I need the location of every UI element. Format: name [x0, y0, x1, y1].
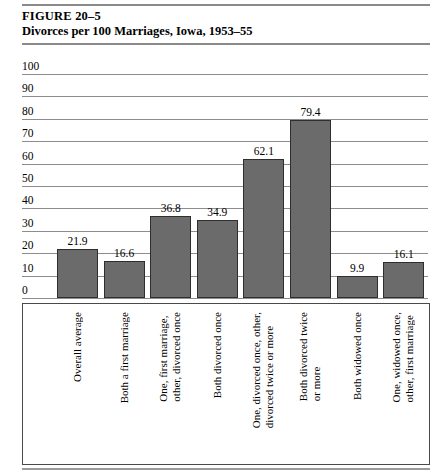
figure-foot-rule: [22, 468, 430, 470]
gridline: [22, 298, 428, 299]
gridline: [22, 119, 428, 120]
x-axis-category-label: Both divorced once: [211, 312, 224, 398]
gridline: [22, 74, 428, 75]
y-axis-tick-label: 20: [22, 239, 34, 251]
bar-value-label: 16.1: [373, 248, 434, 260]
bar-value-label: 34.9: [187, 206, 248, 218]
gridline: [22, 164, 428, 165]
y-axis-tick-label: 50: [22, 172, 34, 184]
x-axis-label-box: Overall averageBoth a first marriageOne,…: [22, 303, 430, 465]
y-axis-tick-label: 40: [22, 194, 34, 206]
x-axis-category-label: Both widowed once: [351, 312, 364, 400]
bar[interactable]: [337, 276, 378, 298]
x-axis-label-line: Both divorced twice: [297, 312, 310, 401]
x-axis-label-line: other, first marriage: [403, 312, 416, 402]
y-axis-tick-label: 10: [22, 262, 34, 274]
x-axis-category-label: One, widowed once,other, first marriage: [390, 312, 416, 402]
bar-value-label: 79.4: [280, 106, 341, 118]
bar[interactable]: [243, 159, 284, 298]
x-axis-label-line: divorced twice or more: [263, 312, 276, 428]
x-axis-label-line: Both widowed once: [351, 312, 364, 400]
gridline: [22, 96, 428, 97]
y-axis-tick-label: 70: [22, 127, 34, 139]
x-axis-label-line: One, widowed once,: [390, 312, 403, 402]
bar-value-label: 62.1: [233, 145, 294, 157]
x-axis-label-line: other, divorced once: [170, 312, 183, 402]
bar[interactable]: [150, 216, 191, 298]
bar[interactable]: [290, 120, 331, 298]
y-axis-tick-label: 90: [22, 82, 34, 94]
y-axis-tick-label: 30: [22, 217, 34, 229]
x-axis-label-line: Both a first marriage: [118, 312, 131, 403]
bar[interactable]: [197, 220, 238, 298]
x-axis-category-label: Both divorced twiceor more: [297, 312, 323, 401]
x-axis-category-label: Overall average: [71, 312, 84, 382]
gridline: [22, 141, 428, 142]
y-axis-tick-label: 0: [22, 284, 28, 296]
bar[interactable]: [104, 261, 145, 298]
bar-value-label: 9.9: [327, 262, 388, 274]
x-axis-label-line: Both divorced once: [211, 312, 224, 398]
x-axis-label-line: or more: [310, 312, 323, 401]
bar-value-label: 16.6: [94, 247, 155, 259]
y-axis-tick-label: 80: [22, 105, 34, 117]
x-axis-category-label: Both a first marriage: [118, 312, 131, 403]
x-axis-label-line: One, first marriage,: [157, 312, 170, 402]
bar-value-label: 21.9: [47, 235, 108, 247]
x-axis-label-line: One, divorced once, other,: [250, 312, 263, 428]
y-axis-tick-label: 100: [22, 60, 39, 72]
x-axis-category-label: One, divorced once, other,divorced twice…: [250, 312, 276, 428]
x-axis-label-line: Overall average: [71, 312, 84, 382]
x-axis-category-label: One, first marriage,other, divorced once: [157, 312, 183, 402]
gridline: [22, 186, 428, 187]
bar[interactable]: [57, 249, 98, 298]
bar[interactable]: [383, 262, 424, 298]
y-axis-tick-label: 60: [22, 150, 34, 162]
